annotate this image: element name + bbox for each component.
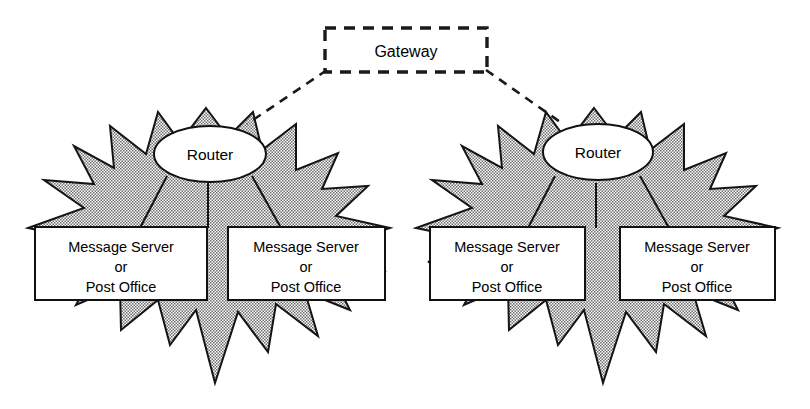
message-server-label-left-1-line3: Post Office — [86, 279, 157, 295]
left-network-cloud: Router Message Server or Post Office Mes… — [28, 108, 390, 383]
right-network-cloud: Router Message Server or Post Office Mes… — [416, 108, 778, 383]
message-server-label-right-2-line3: Post Office — [662, 279, 733, 295]
message-server-label-right-2-line2: or — [691, 259, 704, 275]
message-server-label-left-1-line1: Message Server — [68, 239, 174, 255]
message-server-label-right-2-line1: Message Server — [644, 239, 750, 255]
router-label-left: Router — [187, 146, 234, 163]
message-server-label-left-1-line2: or — [115, 259, 128, 275]
link-gateway-to-right-router — [486, 70, 563, 124]
message-server-label-right-1-line2: or — [501, 259, 514, 275]
message-server-label-right-1-line3: Post Office — [472, 279, 543, 295]
message-server-label-right-1-line1: Message Server — [454, 239, 560, 255]
message-server-label-left-2-line3: Post Office — [271, 279, 342, 295]
network-topology-diagram: Router Message Server or Post Office Mes… — [0, 0, 810, 409]
message-server-label-left-2-line2: or — [300, 259, 313, 275]
message-server-label-left-2-line1: Message Server — [253, 239, 359, 255]
link-gateway-to-left-router — [247, 70, 327, 124]
router-label-right: Router — [575, 144, 622, 161]
gateway-label: Gateway — [374, 43, 437, 60]
